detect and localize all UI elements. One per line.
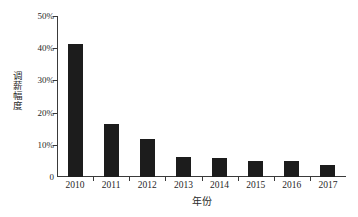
x-tick-label: 2010	[66, 180, 85, 191]
x-tick-label: 2016	[282, 180, 301, 191]
y-tick-mark	[53, 48, 57, 49]
y-tick-mark	[53, 113, 57, 114]
x-tick-label: 2014	[210, 180, 229, 191]
bar	[284, 161, 299, 177]
bar	[176, 157, 191, 177]
y-axis-tick-labels: 010%20%30%40%50%	[24, 0, 54, 217]
bar	[140, 139, 155, 177]
x-tick-label: 2012	[138, 180, 157, 191]
bar	[104, 124, 119, 177]
bar	[248, 161, 263, 177]
x-axis-title: 年份	[57, 193, 346, 208]
x-tick-label: 2015	[246, 180, 265, 191]
y-tick-mark	[53, 145, 57, 146]
bar-chart-figure: 调薪幅度 010%20%30%40%50% 201020112012201320…	[0, 0, 358, 217]
bar	[212, 158, 227, 177]
y-tick-label: 10%	[24, 140, 54, 149]
y-tick-label: 0	[24, 173, 54, 182]
bars-layer	[57, 16, 346, 177]
y-tick-label: 50%	[24, 12, 54, 21]
y-axis-title: 调薪幅度	[10, 56, 24, 126]
y-tick-label: 20%	[24, 108, 54, 117]
x-tick-label: 2013	[174, 180, 193, 191]
x-tick-label: 2017	[318, 180, 337, 191]
y-tick-label: 40%	[24, 44, 54, 53]
bar	[68, 44, 83, 177]
plot-area	[57, 16, 346, 177]
y-tick-mark	[53, 80, 57, 81]
x-tick-label: 2011	[102, 180, 121, 191]
x-axis-tick-labels: 20102011201220132014201520162017	[57, 180, 346, 194]
bar	[320, 165, 335, 177]
y-tick-label: 30%	[24, 76, 54, 85]
y-tick-mark	[53, 16, 57, 17]
